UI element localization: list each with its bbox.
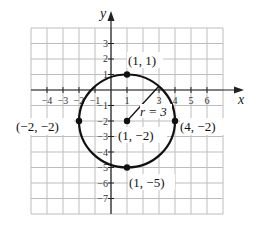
center-label: (1, −2): [118, 128, 154, 143]
x-axis-label: x: [237, 92, 245, 107]
point-right: [172, 118, 178, 124]
point-top: [124, 71, 130, 77]
y-tick-label: 2: [103, 53, 108, 64]
point-label-bottom: (1, −5): [129, 175, 165, 190]
y-tick-label: −6: [97, 178, 108, 189]
y-tick-label: −1: [97, 100, 108, 111]
y-tick-label: −7: [97, 193, 108, 204]
x-tick-label: 5: [189, 95, 194, 106]
y-tick-label: −4: [97, 147, 108, 158]
point-label-right: (4, −2): [180, 119, 216, 134]
point-bottom: [124, 164, 130, 170]
x-tick-label: 1: [125, 95, 130, 106]
x-tick-label: 4: [173, 95, 178, 106]
point-label-left: (−2, −2): [16, 119, 59, 134]
x-tick-label: −4: [42, 95, 53, 106]
center-point: [124, 118, 130, 124]
y-axis: [108, 11, 115, 214]
y-axis-arrow-icon: [108, 11, 115, 21]
circle-graph: x y −4 −3 −2 −1 1 3 4 5 6 3 2 1 −1 −2 −3…: [0, 0, 257, 228]
point-left: [76, 118, 82, 124]
y-tick-label: 3: [103, 38, 108, 49]
y-tick-label: −2: [97, 116, 108, 127]
y-axis-label: y: [98, 6, 107, 21]
y-tick-label: −3: [97, 131, 108, 142]
radius-label: r = 3: [140, 104, 167, 119]
point-label-top: (1, 1): [128, 53, 156, 68]
x-tick-label: −3: [58, 95, 69, 106]
x-tick-label: 6: [205, 95, 210, 106]
